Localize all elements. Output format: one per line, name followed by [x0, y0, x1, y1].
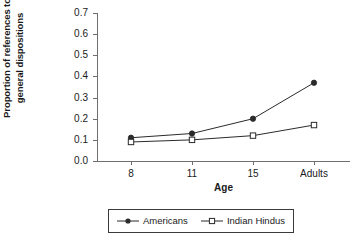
y-tick-label: 0.3: [74, 91, 88, 104]
x-tick-label: 15: [247, 167, 258, 180]
y-axis-title-line-2: general dispositions: [14, 0, 27, 133]
x-tick-mark: [131, 161, 132, 165]
legend-label: Americans: [143, 215, 188, 227]
series-americans: [128, 80, 316, 140]
series-plot: [97, 13, 349, 161]
x-tick-mark: [253, 161, 254, 165]
data-point-marker: [250, 116, 255, 121]
line-chart-figure: Proportion of references to general disp…: [0, 0, 362, 242]
x-tick-mark: [314, 161, 315, 165]
y-tick-mark: 0.0: [93, 161, 97, 162]
data-point-marker: [311, 80, 316, 85]
x-tick-mark: [192, 161, 193, 165]
legend-entry-indian-hindus: Indian Hindus: [201, 215, 285, 227]
y-axis-title-line-1: Proportion of references to: [1, 0, 14, 133]
x-tick-label: Adults: [300, 167, 328, 180]
legend-label: Indian Hindus: [227, 215, 285, 227]
data-point-marker: [311, 122, 316, 127]
legend-open-square-icon: [201, 216, 223, 226]
data-point-marker: [250, 133, 255, 138]
plot-area: 0.70.60.50.40.30.20.10.0 81115Adults: [97, 13, 349, 161]
y-tick-label: 0.6: [74, 27, 88, 40]
y-tick-label: 0.5: [74, 48, 88, 61]
data-point-marker: [189, 131, 194, 136]
legend-filled-circle-icon: [117, 216, 139, 226]
y-axis-title: Proportion of references to general disp…: [1, 0, 41, 133]
x-axis-line: [97, 161, 350, 162]
y-tick-label: 0.4: [74, 69, 88, 82]
y-tick-label: 0.2: [74, 112, 88, 125]
y-tick-label: 0.7: [74, 6, 88, 19]
y-tick-label: 0.1: [74, 133, 88, 146]
x-tick-label: 11: [187, 167, 197, 180]
y-tick-label: 0.0: [74, 154, 88, 167]
data-point-marker: [128, 139, 133, 144]
x-axis-title: Age: [97, 181, 350, 194]
legend-entry-americans: Americans: [117, 215, 188, 227]
chart-legend: AmericansIndian Hindus: [108, 209, 294, 233]
series-line: [131, 125, 314, 142]
data-point-marker: [189, 137, 194, 142]
x-tick-label: 8: [128, 167, 134, 180]
